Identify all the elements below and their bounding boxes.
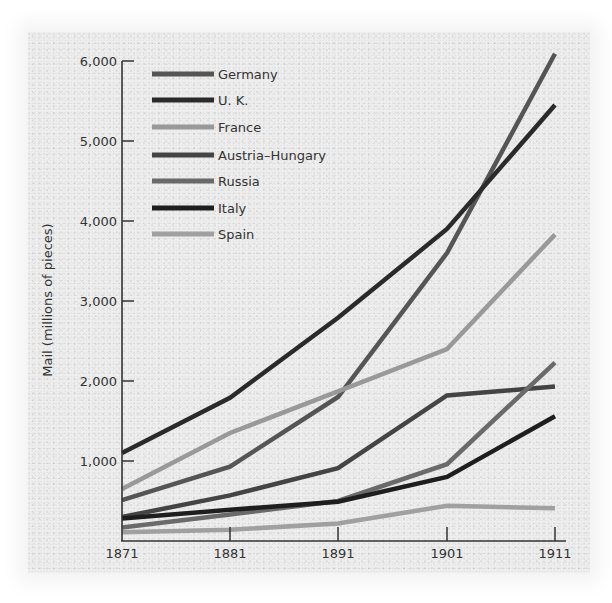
legend-label: France: [218, 120, 261, 135]
legend-item: Russia: [152, 174, 260, 189]
legend-label: Germany: [218, 67, 278, 82]
y-tick-label: 4,000: [80, 214, 117, 229]
legend-label: Italy: [218, 201, 247, 216]
series-line-germany: [122, 54, 555, 500]
legend-item: Spain: [152, 227, 254, 242]
legend-item: Austria–Hungary: [152, 148, 326, 163]
x-tick-label: 1901: [430, 546, 463, 561]
legend-item: U. K.: [152, 93, 248, 108]
legend-label: Russia: [218, 174, 260, 189]
legend: GermanyU. K.FranceAustria–HungaryRussiaI…: [152, 67, 326, 242]
y-tick-label: 6,000: [80, 54, 117, 69]
legend-label: Spain: [218, 227, 254, 242]
x-tick-label: 1911: [538, 546, 571, 561]
legend-label: U. K.: [218, 93, 248, 108]
axes: [121, 61, 566, 541]
x-tick-label: 1871: [105, 546, 138, 561]
x-tick-label: 1881: [213, 546, 246, 561]
line-chart: 1,0002,0003,0004,0005,0006,000 187118811…: [0, 0, 612, 603]
y-tick-label: 1,000: [80, 454, 117, 469]
legend-label: Austria–Hungary: [218, 148, 326, 163]
y-axis-title: Mail (millions of pieces): [40, 223, 55, 376]
y-tick-label: 5,000: [80, 134, 117, 149]
legend-item: France: [152, 120, 261, 135]
y-tick-label: 3,000: [80, 294, 117, 309]
legend-item: Germany: [152, 67, 278, 82]
y-tick-label: 2,000: [80, 374, 117, 389]
legend-item: Italy: [152, 201, 247, 216]
y-axis-ticks: 1,0002,0003,0004,0005,0006,000: [80, 54, 134, 469]
x-tick-label: 1891: [321, 546, 354, 561]
